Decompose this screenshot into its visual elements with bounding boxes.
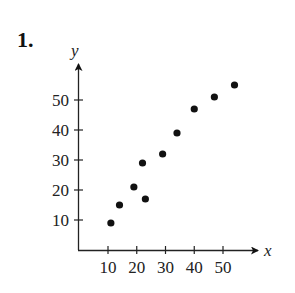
x-tick-label: 50	[215, 258, 232, 277]
x-tick-label: 40	[186, 258, 203, 277]
data-point	[139, 159, 146, 166]
scatter-plot: x y 1020304050 1020304050	[0, 0, 295, 293]
x-axis-label: x	[263, 241, 272, 260]
data-points	[107, 81, 238, 226]
data-point	[116, 201, 123, 208]
x-tick-label: 20	[128, 258, 145, 277]
y-tick-label: 40	[52, 121, 69, 140]
data-point	[130, 183, 137, 190]
data-point	[231, 81, 238, 88]
data-point	[159, 150, 166, 157]
data-point	[107, 219, 114, 226]
y-tick-label: 50	[52, 91, 69, 110]
x-tick-label: 30	[157, 258, 174, 277]
data-point	[191, 105, 198, 112]
data-point	[211, 93, 218, 100]
y-tick-label: 20	[52, 181, 69, 200]
y-axis-label: y	[69, 41, 79, 60]
y-tick-label: 10	[52, 211, 69, 230]
y-tick-label: 30	[52, 151, 69, 170]
data-point	[142, 195, 149, 202]
data-point	[173, 129, 180, 136]
x-tick-label: 10	[100, 258, 117, 277]
